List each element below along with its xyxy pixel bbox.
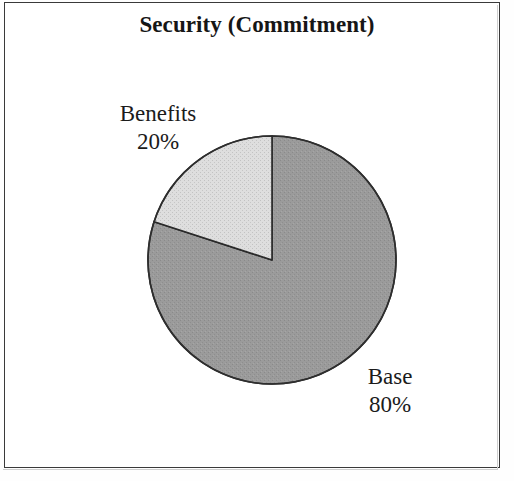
pie-label-benefits: Benefits 20%	[78, 100, 238, 156]
pie-label-benefits-percent: 20%	[78, 128, 238, 156]
pie-label-base-name: Base	[368, 364, 413, 389]
pie-label-benefits-name: Benefits	[120, 101, 197, 126]
figure-page: Security (Commitment) Benefits 20	[0, 0, 514, 481]
pie-label-base-percent: 80%	[310, 391, 470, 419]
pie-label-base: Base 80%	[310, 363, 470, 419]
